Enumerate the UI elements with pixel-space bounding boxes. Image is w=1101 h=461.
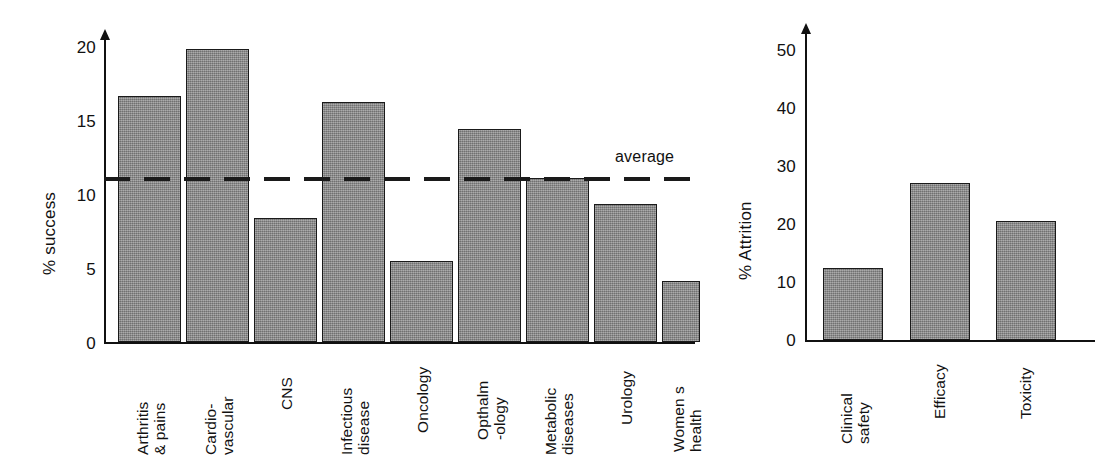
x-label-cns: CNS [279,377,296,410]
x-label-line: CNS [279,377,296,410]
x-label-line: Cardio- [203,396,220,455]
x-label-metabolic-diseases: Metabolic diseases [543,388,576,455]
x-label-line: Arthritis [135,402,152,455]
x-label-line: Women s [671,386,688,452]
x-label-line: Clinical [839,393,856,444]
x-label-cardiovascular: Cardio- vascular [203,396,236,455]
bars-left [0,0,700,342]
x-label-line: -ology [492,381,509,440]
x-label-opthalmology: Opthalm -ology [475,381,508,440]
x-label-line: Metabolic [543,388,560,455]
x-label-line: vascular [220,396,237,455]
x-label-line: Opthalm [475,381,492,440]
bar-metabolic-diseases [526,178,589,342]
bar-infectious-disease [322,102,385,342]
average-line-label: average [615,148,674,166]
bar-opthalmology [458,129,521,342]
x-label-oncology: Oncology [415,367,432,433]
chart-attrition-by-cause: 0 10 20 30 40 50 % Attrition Clinical sa… [700,0,1101,461]
x-label-arthritis-and-pains: Arthritis & pains [135,402,168,455]
bar-urology [594,204,657,342]
bar-cns [254,218,317,342]
figure: 0 5 10 15 20 % success average Arthritis… [0,0,1101,461]
x-label-line: diseases [560,388,577,455]
x-label-line: Efficacy [932,364,949,419]
bar-efficacy [910,183,970,340]
x-label-clinical-safety: Clinical safety [839,393,872,444]
x-label-line: disease [356,388,373,455]
bar-womens-health [662,281,700,342]
bar-cardiovascular [186,49,249,342]
x-label-line: Toxicity [1018,367,1035,419]
bar-oncology [390,261,453,342]
x-label-toxicity: Toxicity [1018,367,1035,419]
x-label-efficacy: Efficacy [932,364,949,419]
average-line [104,177,699,181]
x-axis-line-left [104,342,695,344]
bar-arthritis-and-pains [118,96,181,342]
bars-right [700,0,1101,340]
bar-clinical-safety [823,268,883,340]
x-axis-line-right [805,340,1095,342]
bar-toxicity [996,221,1056,340]
x-label-line: Infectious [339,388,356,455]
x-label-line: safety [856,393,873,444]
x-label-infectious-disease: Infectious disease [339,388,372,455]
x-label-line: Oncology [415,367,432,433]
x-label-line: & pains [152,402,169,455]
chart-success-by-therapy-area: 0 5 10 15 20 % success average Arthritis… [0,0,700,461]
x-label-line: Urology [619,371,636,425]
x-label-urology: Urology [619,371,636,425]
